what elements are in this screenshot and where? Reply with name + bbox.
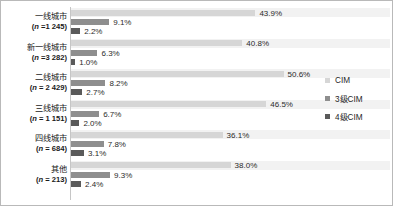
bar-value-label: 38.0% [231,161,258,170]
bar[interactable] [71,150,84,156]
legend-label: CIM [335,76,350,85]
bar[interactable] [71,40,242,46]
bar[interactable] [71,101,266,107]
legend-item[interactable]: 4级CIM [325,107,363,125]
bar-value-label: 2.0% [79,118,101,127]
category-label: 四线城市(n = 684) [1,135,67,154]
legend-swatch-icon [325,96,330,101]
bar-value-label: 9.3% [110,170,132,179]
category-label: 新一线城市(n =3 282) [1,43,67,62]
bar[interactable] [71,71,284,77]
category-sample-size: (n = 2 429) [1,84,67,93]
bar-group: 新一线城市(n =3 282)40.8%6.3%1.0% [1,38,392,69]
bar-value-label: 2.2% [80,27,102,36]
bar-group: 四线城市(n = 684)36.1%7.8%3.1% [1,129,392,160]
bar[interactable] [71,80,105,86]
bar-value-label: 7.8% [104,140,126,149]
bar[interactable] [71,10,255,16]
bar-value-label: 2.4% [81,179,103,188]
category-sample-size: (n = 1 151) [1,114,67,123]
category-name: 三线城市 [1,104,67,114]
bar[interactable] [71,141,104,147]
bar-value-label: 8.2% [105,79,127,88]
bar[interactable] [71,120,79,126]
category-label: 其他(n = 213) [1,165,67,184]
category-label: 二线城市(n = 2 429) [1,74,67,93]
bar[interactable] [71,28,80,34]
bar-value-label: 36.1% [223,130,250,139]
bar[interactable] [71,172,110,178]
bar[interactable] [71,162,231,168]
grouped-bar-chart: 一线城市(n =1 245)43.9%9.1%2.2%新一线城市(n =3 28… [0,0,393,206]
bar-value-label: 6.3% [97,48,119,57]
bar-value-label: 6.7% [99,109,121,118]
legend-label: 3级CIM [335,92,363,104]
legend-swatch-icon [325,114,330,119]
legend-swatch-icon [325,78,330,83]
chart-legend: CIM3级CIM4级CIM [325,71,363,125]
category-sample-size: (n = 684) [1,145,67,154]
category-name: 其他 [1,165,67,175]
legend-item[interactable]: 3级CIM [325,89,363,107]
category-name: 一线城市 [1,13,67,23]
bar-value-label: 43.9% [255,8,282,17]
bar-value-label: 9.1% [109,18,131,27]
category-label: 三线城市(n = 1 151) [1,104,67,123]
bar[interactable] [71,50,97,56]
bar[interactable] [71,181,81,187]
category-name: 二线城市 [1,74,67,84]
category-sample-size: (n =1 245) [1,23,67,32]
bar-value-label: 2.7% [82,88,104,97]
bar-group: 一线城市(n =1 245)43.9%9.1%2.2% [1,7,392,38]
bars: 38.0%9.3%2.4% [71,160,392,191]
category-sample-size: (n = 213) [1,175,67,184]
category-name: 四线城市 [1,135,67,145]
legend-label: 4级CIM [335,110,363,122]
bar-value-label: 3.1% [84,149,106,158]
category-sample-size: (n =3 282) [1,53,67,62]
legend-item[interactable]: CIM [325,71,363,89]
bar-value-label: 1.0% [75,57,97,66]
bar[interactable] [71,89,82,95]
bar-value-label: 40.8% [242,39,269,48]
bar[interactable] [71,19,109,25]
bar-value-label: 46.5% [266,100,293,109]
category-name: 新一线城市 [1,43,67,53]
bars: 43.9%9.1%2.2% [71,7,392,38]
bar-group: 其他(n = 213)38.0%9.3%2.4% [1,160,392,191]
category-label: 一线城市(n =1 245) [1,13,67,32]
bars: 40.8%6.3%1.0% [71,38,392,69]
bars: 36.1%7.8%3.1% [71,129,392,160]
bar-value-label: 50.6% [284,69,311,78]
bar[interactable] [71,111,99,117]
bar[interactable] [71,132,223,138]
